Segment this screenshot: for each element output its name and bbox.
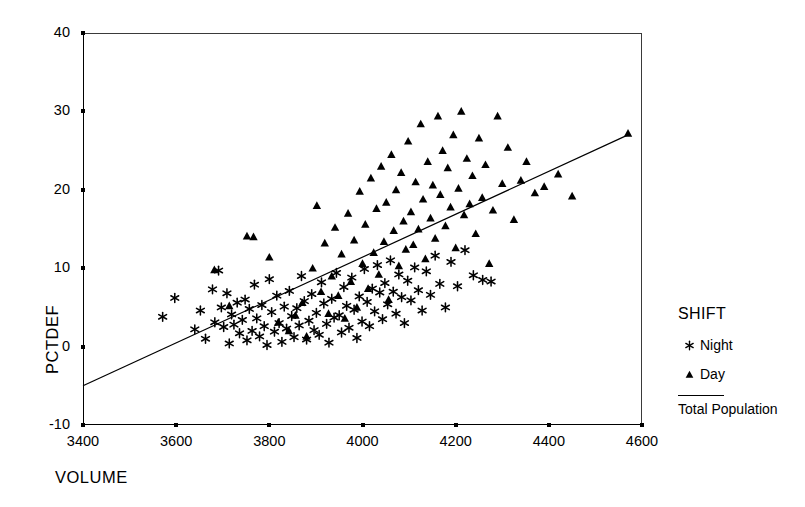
y-tick-label: 40: [28, 25, 70, 40]
plot-area-frame: [83, 33, 642, 425]
x-tick-label: 4200: [426, 434, 486, 449]
x-tick-mark: [361, 423, 365, 427]
y-tick-label: 20: [28, 182, 70, 197]
x-tick-mark: [547, 423, 551, 427]
x-tick-label: 3800: [239, 434, 299, 449]
x-tick-mark: [454, 423, 458, 427]
legend-label-day: Day: [700, 366, 725, 382]
legend: SHIFT Night Day: [678, 305, 805, 417]
y-tick-label: -10: [28, 417, 70, 432]
x-tick-mark: [174, 423, 178, 427]
legend-item-total-population: Total Population: [678, 395, 805, 417]
x-tick-mark: [81, 423, 85, 427]
y-tick-mark: [81, 266, 85, 270]
legend-item-day: Day: [678, 366, 805, 382]
y-tick-mark: [81, 109, 85, 113]
y-tick-mark: [81, 31, 85, 35]
triangle-marker-icon: [678, 369, 700, 380]
x-tick-label: 4000: [333, 434, 393, 449]
x-tick-label: 4600: [612, 434, 672, 449]
x-tick-label: 3400: [53, 434, 113, 449]
legend-label-night: Night: [700, 337, 733, 353]
y-tick-label: 0: [28, 339, 70, 354]
scatter-plot-figure: PCTDEF VOLUME 403020100-10 3400360038004…: [0, 0, 805, 507]
x-tick-mark: [267, 423, 271, 427]
asterisk-marker-icon: [678, 340, 700, 351]
y-tick-label: 10: [28, 260, 70, 275]
y-tick-label: 30: [28, 103, 70, 118]
x-tick-mark: [640, 423, 644, 427]
legend-item-night: Night: [678, 337, 805, 353]
x-axis-title: VOLUME: [55, 468, 128, 487]
legend-title: SHIFT: [678, 305, 805, 323]
line-marker-icon: [678, 395, 724, 396]
y-tick-mark: [81, 188, 85, 192]
legend-label-total-population: Total Population: [678, 401, 805, 417]
x-tick-label: 3600: [146, 434, 206, 449]
y-tick-mark: [81, 345, 85, 349]
x-tick-label: 4400: [519, 434, 579, 449]
